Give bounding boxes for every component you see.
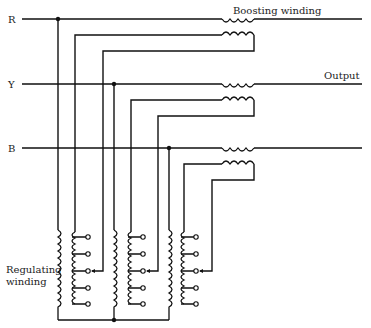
star-point-node [112, 318, 116, 322]
phase-label-b: B [8, 143, 15, 154]
regulating-winding-b [169, 230, 203, 320]
phase-b-circuit [22, 146, 362, 271]
phase-label-y: Y [7, 79, 15, 90]
regulating-label-2: winding [6, 276, 47, 287]
booster-transformer-diagram: R Y B Boosting winding Output Regulating… [0, 0, 371, 328]
regulating-winding-y [114, 230, 150, 320]
output-label: Output [324, 70, 360, 81]
regulating-label-1: Regulating [6, 264, 62, 275]
phase-label-r: R [8, 14, 16, 25]
boosting-winding-label: Boosting winding [233, 5, 322, 16]
regulating-winding-r [58, 230, 95, 320]
